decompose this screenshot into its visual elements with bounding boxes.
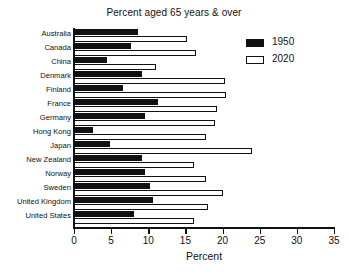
bar-1950 (74, 169, 145, 175)
bar-1950 (74, 43, 131, 49)
bar-2020 (74, 176, 206, 182)
bar-1950 (74, 183, 150, 189)
x-tick (297, 228, 298, 234)
x-tick-label: 10 (133, 235, 163, 246)
x-tick-label: 25 (245, 235, 275, 246)
category-label: United Kingdom (0, 197, 71, 206)
chart-legend: 19502020 (246, 36, 341, 70)
x-tick-label: 20 (208, 235, 238, 246)
x-tick (185, 228, 186, 234)
x-tick-label: 5 (96, 235, 126, 246)
bar-1950 (74, 127, 93, 133)
bar-1950 (74, 141, 110, 147)
category-label: Canada (0, 43, 71, 52)
category-label: Hong Kong (0, 127, 71, 136)
bar-1950 (74, 113, 145, 119)
chart-title: Percent aged 65 years & over (0, 7, 348, 18)
bar-2020 (74, 190, 223, 196)
x-tick-label: 0 (59, 235, 89, 246)
x-tick (111, 228, 112, 234)
bar-2020 (74, 92, 226, 98)
bar-1950 (74, 211, 134, 217)
x-tick (334, 228, 335, 234)
category-label: Sweden (0, 183, 71, 192)
bar-1950 (74, 71, 142, 77)
bar-2020 (74, 134, 206, 140)
category-label: Denmark (0, 71, 71, 80)
bar-chart: Percent aged 65 years & over AustraliaCa… (0, 0, 348, 278)
x-tick (74, 228, 75, 234)
category-label: China (0, 57, 71, 66)
legend-swatch-2020 (246, 56, 264, 64)
category-label: France (0, 99, 71, 108)
bar-1950 (74, 57, 107, 63)
bar-1950 (74, 99, 158, 105)
x-tick (260, 228, 261, 234)
bar-2020 (74, 204, 208, 210)
legend-label: 1950 (272, 36, 294, 47)
x-tick-label: 35 (319, 235, 348, 246)
x-tick (223, 228, 224, 234)
bar-1950 (74, 85, 123, 91)
bar-2020 (74, 106, 217, 112)
category-label: New Zealand (0, 155, 71, 164)
x-tick-label: 30 (282, 235, 312, 246)
category-label: Germany (0, 113, 71, 122)
category-label: Australia (0, 29, 71, 38)
bar-2020 (74, 120, 215, 126)
x-tick (148, 228, 149, 234)
bar-2020 (74, 148, 252, 154)
bar-1950 (74, 197, 153, 203)
legend-item: 2020 (246, 53, 341, 70)
category-label: Japan (0, 141, 71, 150)
legend-swatch-1950 (246, 39, 264, 47)
bar-2020 (74, 218, 194, 224)
bar-1950 (74, 155, 142, 161)
category-label: United States (0, 211, 71, 220)
bar-2020 (74, 50, 196, 56)
x-tick-label: 15 (170, 235, 200, 246)
category-label: Norway (0, 169, 71, 178)
bar-2020 (74, 78, 225, 84)
x-axis-title: Percent (74, 250, 334, 262)
category-label: Finland (0, 85, 71, 94)
bar-2020 (74, 64, 156, 70)
bar-2020 (74, 162, 194, 168)
legend-label: 2020 (272, 53, 294, 64)
bar-2020 (74, 36, 187, 42)
bar-1950 (74, 29, 138, 35)
legend-item: 1950 (246, 36, 341, 53)
